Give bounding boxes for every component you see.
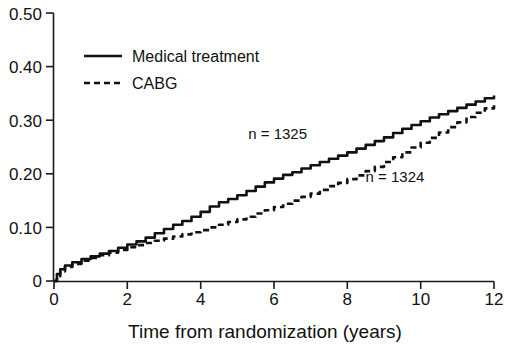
survival-curve-chart: 0.50 0.40 0.30 0.20 0.10 0 0 2 4 6 8 10 … <box>0 0 510 347</box>
x-tick-label-10: 10 <box>411 290 430 309</box>
x-tick-label-12: 12 <box>485 290 504 309</box>
x-tick-label-0: 0 <box>49 290 58 309</box>
y-tick-label-040: 0.40 <box>9 58 42 77</box>
x-tick-label-2: 2 <box>123 290 132 309</box>
y-tick-label-030: 0.30 <box>9 112 42 131</box>
x-axis-title: Time from randomization (years) <box>128 321 402 342</box>
legend-label-cabg: CABG <box>132 75 177 92</box>
y-tick-label-050: 0.50 <box>9 5 42 24</box>
y-tick-label-020: 0.20 <box>9 165 42 184</box>
annotation-n-cabg: n = 1324 <box>366 168 425 185</box>
legend-label-medical-treatment: Medical treatment <box>132 48 260 65</box>
chart-container: 0.50 0.40 0.30 0.20 0.10 0 0 2 4 6 8 10 … <box>0 0 510 347</box>
x-tick-label-4: 4 <box>196 290 205 309</box>
y-tick-label-0: 0 <box>33 272 42 291</box>
x-tick-label-6: 6 <box>269 290 278 309</box>
x-tick-label-8: 8 <box>343 290 352 309</box>
annotation-n-medical: n = 1325 <box>248 125 307 142</box>
y-tick-label-010: 0.10 <box>9 219 42 238</box>
